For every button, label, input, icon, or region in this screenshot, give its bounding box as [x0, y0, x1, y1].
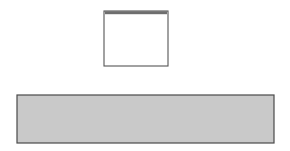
scallop-panel-background	[17, 95, 274, 143]
scallop-pattern-panel	[17, 95, 274, 143]
figure-canvas	[0, 0, 290, 151]
fold-diagram	[104, 11, 168, 66]
fold-crease-band	[105, 11, 167, 14]
fold-diagram-box	[104, 11, 168, 66]
figure-root	[0, 0, 290, 151]
